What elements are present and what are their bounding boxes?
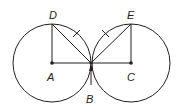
point-c xyxy=(129,61,133,65)
point-a xyxy=(50,61,54,65)
geometry-diagram: D E A C B xyxy=(0,0,179,108)
label-d: D xyxy=(49,9,57,21)
segment-db xyxy=(52,24,91,63)
label-c: C xyxy=(127,71,135,83)
label-b: B xyxy=(86,93,93,105)
label-e: E xyxy=(127,9,135,21)
label-a: A xyxy=(46,71,54,83)
point-b xyxy=(90,62,93,65)
